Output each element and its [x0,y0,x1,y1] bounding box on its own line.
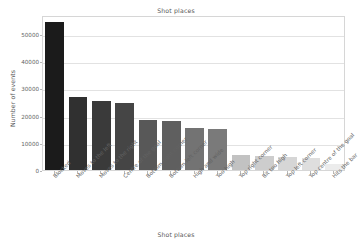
chart-title: Shot places [0,7,352,14]
y-tick-label: 30000 [1,86,39,92]
y-axis-label: Number of events [9,54,16,144]
grid-line [43,63,344,64]
grid-line [43,36,344,37]
grid-line [43,118,344,119]
x-axis-label: Shot places [0,231,352,238]
grid-line [43,90,344,91]
y-tick-label: 40000 [1,59,39,65]
y-tick-label: 0 [1,168,39,174]
y-tick-label: 50000 [1,32,39,38]
y-tick-label: 10000 [1,141,39,147]
bar[interactable] [45,22,64,170]
y-tick-label: 20000 [1,114,39,120]
bar[interactable] [69,97,88,170]
y-tick-mark [40,171,43,172]
